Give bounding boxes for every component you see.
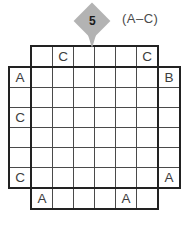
grid-cell[interactable] [95, 128, 115, 147]
grid-cell[interactable] [95, 148, 115, 167]
main-grid-block: ACC BA [8, 66, 181, 189]
right-clue-cell [159, 88, 179, 107]
right-clue-cell [159, 148, 179, 167]
top-clue-cell: C [53, 47, 73, 66]
left-clue-cell [10, 128, 30, 147]
bottom-clue-cell [74, 189, 94, 208]
letter-range-label: (A–C) [122, 11, 158, 26]
left-clue-cell [10, 88, 30, 107]
grid-cell[interactable] [95, 108, 115, 127]
right-clue-cell [159, 108, 179, 127]
grid-cell[interactable] [53, 68, 73, 87]
top-clues-row: CC [30, 45, 159, 66]
left-clue-cell: C [10, 108, 30, 127]
grid-cell[interactable] [32, 108, 52, 127]
answer-grid [32, 68, 157, 187]
grid-cell[interactable] [32, 68, 52, 87]
grid-cell[interactable] [116, 88, 136, 107]
grid-cell[interactable] [32, 88, 52, 107]
grid-cell[interactable] [53, 108, 73, 127]
grid-cell[interactable] [53, 88, 73, 107]
grid-cell[interactable] [95, 88, 115, 107]
grid-cell[interactable] [137, 88, 157, 107]
left-clues-column: ACC [10, 68, 32, 187]
grid-cell[interactable] [32, 168, 52, 187]
grid-cell[interactable] [116, 148, 136, 167]
grid-cell[interactable] [137, 128, 157, 147]
grid-cell[interactable] [137, 68, 157, 87]
grid-cell[interactable] [95, 68, 115, 87]
grid-cell[interactable] [137, 108, 157, 127]
bottom-clue-cell: A [116, 189, 136, 208]
grid-cell[interactable] [74, 148, 94, 167]
puzzle-number-badge: 5 [74, 3, 111, 40]
grid-cell[interactable] [74, 88, 94, 107]
left-clue-cell: A [10, 68, 30, 87]
grid-cell[interactable] [74, 168, 94, 187]
grid-cell[interactable] [116, 168, 136, 187]
grid-cell[interactable] [53, 148, 73, 167]
grid-cell[interactable] [137, 148, 157, 167]
bottom-clue-cell [95, 189, 115, 208]
right-clue-cell: A [159, 168, 179, 187]
right-clue-cell: B [159, 68, 179, 87]
grid-cell[interactable] [74, 108, 94, 127]
top-clue-cell [95, 47, 115, 66]
grid-cell[interactable] [74, 68, 94, 87]
right-clues-column: BA [157, 68, 179, 187]
left-clue-cell: C [10, 168, 30, 187]
puzzle-page: 5 (A–C) CC ACC BA AA [0, 0, 189, 228]
grid-cell[interactable] [32, 148, 52, 167]
puzzle-board: CC ACC BA AA [8, 45, 181, 210]
grid-cell[interactable] [116, 128, 136, 147]
right-clue-cell [159, 128, 179, 147]
grid-cell[interactable] [95, 168, 115, 187]
bottom-clue-cell [137, 189, 157, 208]
bottom-clue-cell: A [32, 189, 52, 208]
puzzle-number: 5 [89, 14, 96, 28]
bottom-clues-row: AA [30, 189, 159, 210]
top-clue-cell [32, 47, 52, 66]
top-clue-cell: C [137, 47, 157, 66]
grid-cell[interactable] [74, 128, 94, 147]
bottom-clue-cell [53, 189, 73, 208]
top-clue-cell [74, 47, 94, 66]
grid-cell[interactable] [116, 68, 136, 87]
grid-cell[interactable] [32, 128, 52, 147]
grid-cell[interactable] [53, 128, 73, 147]
grid-cell[interactable] [137, 168, 157, 187]
grid-cell[interactable] [53, 168, 73, 187]
top-clue-cell [116, 47, 136, 66]
grid-cell[interactable] [116, 108, 136, 127]
left-clue-cell [10, 148, 30, 167]
